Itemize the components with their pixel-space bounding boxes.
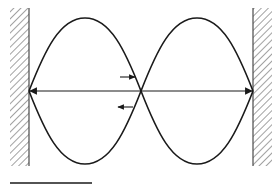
right-loop-upper [141, 18, 253, 91]
standing-wave-diagram [0, 0, 279, 184]
left-loop-lower [29, 91, 141, 164]
left-wall [10, 8, 29, 166]
right-loop-lower [141, 91, 253, 164]
right-wall-hatch [253, 8, 272, 166]
left-wall-hatch [10, 8, 29, 166]
left-loop-upper [29, 18, 141, 91]
right-wall [253, 8, 272, 166]
